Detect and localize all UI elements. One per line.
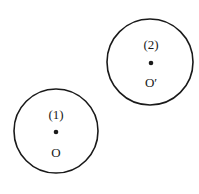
center-label-o-prime: O′: [145, 75, 157, 90]
circle-2-group: (2) O′: [107, 19, 193, 105]
circle-1-group: (1) O: [14, 89, 98, 173]
diagram-canvas: (1) O (2) O′: [0, 0, 199, 194]
center-point-o: [54, 130, 59, 135]
center-label-o: O: [51, 145, 60, 160]
center-point-o-prime: [149, 61, 154, 66]
circle-1-number-label: (1): [48, 107, 63, 122]
circle-2-number-label: (2): [143, 37, 158, 52]
